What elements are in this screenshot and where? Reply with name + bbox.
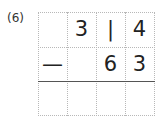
subtraction-grid: 3 | 4 — 6 3 [38,12,155,116]
cell-r1c1 [38,12,67,46]
cell-r1c4: 4 [125,12,154,46]
cell-r1c3: | [96,12,125,46]
cell-r1c2: 3 [67,12,96,46]
answer-cell-1[interactable] [38,81,67,115]
cell-r2c2 [67,47,96,81]
minus-sign: — [38,47,67,81]
problem-label: (6) [7,11,24,25]
answer-cell-3[interactable] [96,81,125,115]
answer-cell-2[interactable] [67,81,96,115]
cell-r2c4: 3 [125,47,154,81]
cell-r2c3: 6 [96,47,125,81]
answer-cell-4[interactable] [125,81,154,115]
